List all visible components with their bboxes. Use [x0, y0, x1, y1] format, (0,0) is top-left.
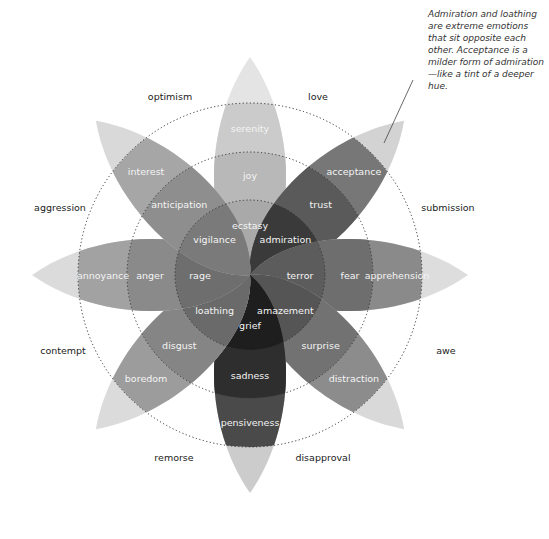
- emotion-label-inner: ecstasy: [232, 220, 269, 231]
- emotion-label-middle: anger: [136, 270, 164, 281]
- emotion-label-inner: terror: [287, 270, 314, 281]
- emotion-label-outer: distraction: [329, 373, 380, 384]
- dyad-label-submission: submission: [421, 202, 474, 213]
- emotion-label-outer: annoyance: [77, 270, 129, 281]
- emotion-label-middle: joy: [242, 170, 257, 181]
- dyad-label-awe: awe: [436, 345, 456, 356]
- emotion-label-inner: vigilance: [193, 234, 236, 245]
- emotion-label-outer: interest: [128, 166, 165, 177]
- emotion-label-middle: sadness: [231, 370, 270, 381]
- emotion-label-inner: amazement: [257, 305, 314, 316]
- emotion-label-outer: serenity: [231, 123, 270, 134]
- emotion-label-inner: rage: [189, 270, 211, 281]
- dyad-label-remorse: remorse: [154, 452, 193, 463]
- emotion-label-middle: surprise: [302, 340, 340, 351]
- emotion-label-middle: trust: [310, 199, 333, 210]
- emotion-label-outer: pensiveness: [221, 417, 280, 428]
- emotion-label-inner: admiration: [260, 234, 312, 245]
- dyad-label-contempt: contempt: [40, 345, 86, 356]
- emotion-label-outer: boredom: [125, 373, 167, 384]
- annotation-text: Admiration and loathing are extreme emot…: [428, 8, 546, 92]
- dyad-label-optimism: optimism: [148, 91, 192, 102]
- emotion-label-outer: acceptance: [327, 166, 382, 177]
- dyad-label-love: love: [308, 91, 328, 102]
- emotion-label-outer: apprehension: [365, 270, 430, 281]
- emotion-label-middle: fear: [341, 270, 360, 281]
- emotion-label-middle: disgust: [162, 340, 197, 351]
- emotion-label-inner: loathing: [195, 305, 234, 316]
- emotion-label-middle: anticipation: [151, 199, 207, 210]
- dyad-label-disapproval: disapproval: [295, 452, 350, 463]
- emotion-label-inner: grief: [239, 320, 261, 331]
- dyad-label-aggression: aggression: [34, 202, 86, 213]
